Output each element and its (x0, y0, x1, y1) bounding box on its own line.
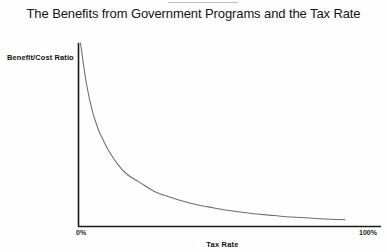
x-axis-tick-max: 100% (359, 229, 377, 236)
data-curve-group (81, 43, 346, 220)
axes-group (78, 43, 381, 227)
y-axis-label: Benefit/Cost Ratio (7, 53, 74, 62)
plot-area (0, 0, 387, 252)
chart-figure: The Benefits from Government Programs an… (0, 0, 387, 252)
benefit-cost-ratio-curve (81, 43, 346, 220)
x-axis-label: Tax Rate (0, 240, 387, 249)
x-axis-tick-min: 0% (76, 229, 86, 236)
